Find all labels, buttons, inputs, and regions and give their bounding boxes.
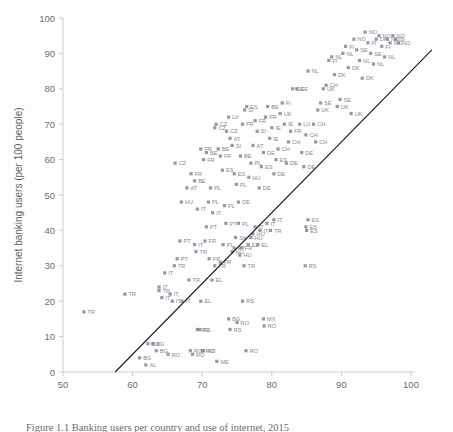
data-point — [194, 250, 197, 253]
data-point — [263, 324, 266, 327]
data-point — [254, 119, 257, 122]
data-point — [366, 41, 369, 44]
data-point-label: PL — [227, 242, 234, 248]
data-point-label: HU — [243, 252, 251, 258]
data-point — [312, 123, 315, 126]
data-point-label: IT — [198, 242, 204, 248]
data-point-label: CH — [317, 121, 325, 127]
data-point-label: FR — [224, 153, 231, 159]
data-point-label: UK — [341, 104, 349, 110]
data-point-label: DK — [338, 72, 346, 78]
data-point — [330, 55, 333, 58]
data-point — [233, 172, 236, 175]
data-point-label: ES — [250, 104, 258, 110]
data-point — [169, 293, 172, 296]
data-point — [235, 321, 238, 324]
data-point-label: SE — [324, 100, 332, 106]
data-point-label: BE — [198, 178, 206, 184]
data-point — [268, 137, 271, 140]
x-tick-label: 70 — [197, 379, 208, 390]
data-point — [389, 41, 392, 44]
data-point — [375, 38, 378, 41]
data-point-label: RO — [172, 352, 181, 358]
data-point-label: LU — [303, 121, 310, 127]
data-point — [333, 73, 336, 76]
data-point — [193, 179, 196, 182]
data-point-label: RS — [203, 327, 211, 333]
x-tick-label: 60 — [127, 379, 138, 390]
data-point — [167, 353, 170, 356]
data-point — [160, 296, 163, 299]
data-point — [171, 300, 174, 303]
data-point-label: EL — [216, 277, 223, 283]
data-point — [138, 356, 141, 359]
data-point-label: CZ — [179, 160, 187, 166]
data-point-label: DE — [267, 150, 275, 156]
data-point — [306, 70, 309, 73]
data-point-label: SE — [300, 86, 308, 92]
data-point — [157, 285, 160, 288]
x-tick-label: 100 — [403, 379, 419, 390]
data-point-label: HU — [185, 199, 193, 205]
data-point-label: NL — [377, 61, 384, 67]
data-point-label: HU — [252, 175, 260, 181]
data-point-label: IE — [288, 121, 294, 127]
data-point — [258, 229, 261, 232]
data-point-label: EL — [261, 242, 268, 248]
y-tick-label: 50 — [44, 190, 55, 201]
data-point-label: NO — [358, 36, 367, 42]
data-point — [251, 144, 254, 147]
data-point-label: SI — [236, 143, 242, 149]
data-point — [361, 77, 364, 80]
data-point — [380, 45, 383, 48]
data-point — [146, 342, 149, 345]
data-point-label: LV — [232, 114, 239, 120]
data-point — [249, 236, 252, 239]
data-point-label: RO — [196, 352, 205, 358]
figure-container: 01020304050607080901005060708090100Inter… — [0, 0, 453, 432]
data-points-group: TRTRBGALBGBGBGITTRITITROITITTRPTPTITTRRO… — [82, 29, 411, 368]
data-point — [234, 236, 237, 239]
data-point-label: SE — [360, 47, 368, 53]
data-point — [157, 289, 160, 292]
data-point-label: IT — [271, 221, 277, 227]
data-point-label: FR — [294, 128, 301, 134]
data-point — [304, 225, 307, 228]
data-point — [324, 84, 327, 87]
data-point-label: ES — [226, 167, 234, 173]
data-point-label: PT — [229, 221, 237, 227]
data-point — [264, 116, 267, 119]
data-point — [304, 264, 307, 267]
y-tick-label: 10 — [44, 331, 55, 342]
data-point-label: FI — [286, 100, 291, 106]
data-point — [244, 349, 247, 352]
data-point-label: CZ — [230, 128, 238, 134]
data-point-label: ES — [265, 164, 273, 170]
data-point-label: PL — [214, 185, 221, 191]
y-tick-label: 20 — [44, 296, 55, 307]
data-point — [336, 105, 339, 108]
data-point — [227, 317, 230, 320]
data-point-label: CH — [330, 82, 338, 88]
data-point — [302, 165, 305, 168]
data-point-label: TR — [87, 309, 94, 315]
data-point-label: TR — [274, 228, 281, 234]
data-point — [191, 353, 194, 356]
data-point-label: UK — [284, 111, 292, 117]
data-point-label: CH — [282, 146, 290, 152]
data-point — [295, 87, 298, 90]
data-point-label: IT — [201, 206, 207, 212]
data-point-label: NL — [388, 54, 395, 60]
data-point — [245, 105, 248, 108]
data-point-label: TR — [200, 249, 207, 255]
data-point — [205, 151, 208, 154]
data-point-label: IT — [165, 295, 171, 301]
data-point — [193, 243, 196, 246]
figure-caption: Figure 1.1 Banking users per country and… — [26, 421, 426, 432]
data-point — [247, 176, 250, 179]
data-point — [270, 126, 273, 129]
data-point — [198, 328, 201, 331]
data-point — [213, 126, 216, 129]
data-point-label: ES — [238, 171, 246, 177]
data-point — [258, 186, 261, 189]
